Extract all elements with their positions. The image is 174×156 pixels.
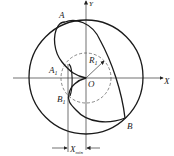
label-a: A	[58, 10, 65, 20]
cam-profile-curve	[55, 21, 125, 122]
label-x-axis: X	[163, 76, 170, 86]
label-a1: A1	[48, 65, 58, 76]
label-r1: R1	[88, 55, 98, 66]
cam-profile-diagram: A A1 B1 O R1 B X Y Xmin	[0, 0, 174, 156]
label-xmin: Xmin	[69, 144, 84, 155]
label-b: B	[127, 121, 133, 131]
label-b1: B1	[57, 94, 66, 105]
label-o: O	[88, 79, 95, 89]
label-y-axis: Y	[89, 0, 94, 8]
